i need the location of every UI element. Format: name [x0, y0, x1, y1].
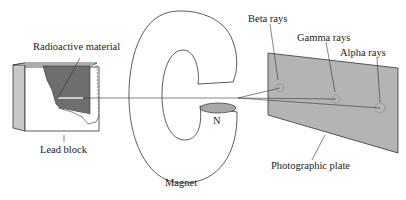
label-magnet: Magnet	[165, 177, 197, 188]
label-gamma-rays: Gamma rays	[297, 32, 350, 43]
north-pole	[200, 103, 236, 113]
label-alpha-rays: Alpha rays	[340, 47, 386, 58]
photographic-plate	[268, 53, 398, 153]
north-pole-label: N	[213, 115, 221, 126]
lead-block	[13, 63, 99, 131]
label-lead-block: Lead block	[40, 144, 88, 155]
radiation-magnet-diagram: N Radioactive material Lead block Magnet…	[0, 0, 406, 200]
magnet: N	[129, 11, 237, 183]
label-beta-rays: Beta rays	[248, 13, 287, 24]
label-photographic-plate: Photographic plate	[271, 160, 350, 171]
label-radioactive-material: Radioactive material	[33, 41, 120, 52]
